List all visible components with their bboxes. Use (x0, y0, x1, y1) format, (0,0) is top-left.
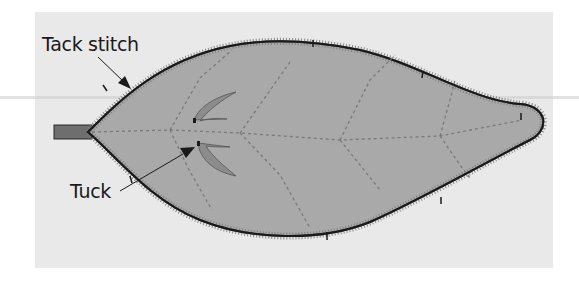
tuck-label: Tuck (70, 182, 111, 201)
tack-stitch-label: Tack stitch (42, 35, 139, 54)
stem (54, 125, 92, 139)
tack-stitch-arrow (98, 57, 131, 89)
